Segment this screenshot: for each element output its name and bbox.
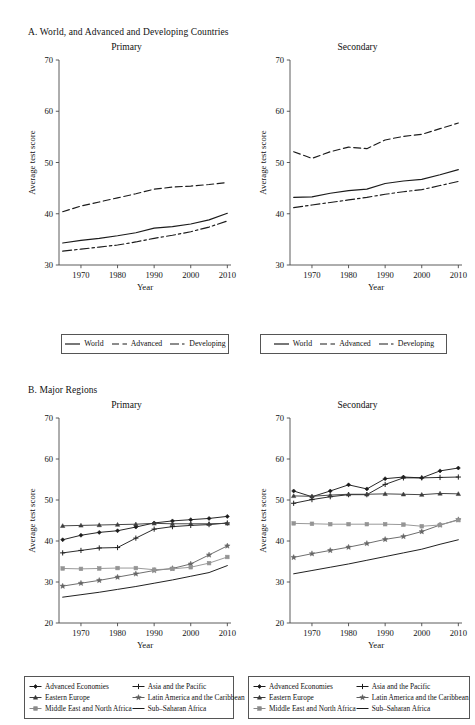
svg-text:60: 60 [44,454,53,464]
legend-item-label: Latin America and the Caribbean [148,694,245,701]
legend-key-dashed [319,340,336,348]
legend-key-dashed [111,340,128,348]
svg-text:40: 40 [275,536,284,546]
svg-text:2000: 2000 [182,270,199,280]
legend-item-eastern-europe[interactable]: Eastern Europe [253,693,356,702]
legend-item-label: Asia and the Pacific [148,683,207,690]
svg-text:30: 30 [44,260,53,270]
legend-item-label: World [293,340,312,348]
svg-text:1990: 1990 [146,270,163,280]
svg-text:1980: 1980 [109,270,126,280]
legend-panel-b-primary: Advanced EconomiesAsia and the PacificEa… [24,676,234,719]
svg-text:2010: 2010 [450,270,467,280]
svg-text:Average test score: Average test score [258,488,268,552]
legend-key-solid [64,340,81,348]
svg-text:30: 30 [275,260,284,270]
legend-item-label: Advanced Economies [269,683,333,690]
legend-key-plus [356,682,369,691]
legend-item-developing[interactable]: Developing [169,340,225,348]
chart-title-b-primary: Primary [14,400,239,410]
svg-text:50: 50 [44,495,53,505]
chart-panel-b-primary: Primary 20304050607019701980199020002010… [14,400,239,665]
legend-key-diamond [253,682,266,691]
svg-text:2000: 2000 [182,628,199,638]
legend-item-label: Middle East and North Africa [269,705,356,712]
legend-item-asia-and-the-pacific[interactable]: Asia and the Pacific [132,682,245,691]
svg-text:Year: Year [368,282,384,292]
svg-text:50: 50 [275,495,284,505]
legend-panel-b-secondary: Advanced EconomiesAsia and the PacificEa… [248,676,470,719]
legend-item-label: Sub–Saharan Africa [372,705,431,712]
svg-text:30: 30 [275,577,284,587]
svg-text:1990: 1990 [146,628,163,638]
legend-key-triangle [29,693,42,702]
svg-text:40: 40 [44,209,53,219]
legend-item-latin-america-and-the-caribbean[interactable]: Latin America and the Caribbean [132,693,245,702]
legend-key-dashdot [169,340,186,348]
legend-key-plus [132,682,145,691]
chart-panel-a-secondary: Secondary 304050607019701980199020002010… [245,42,470,307]
svg-text:40: 40 [275,209,284,219]
svg-text:60: 60 [44,106,53,116]
panel-b-title: B. Major Regions [28,385,97,395]
svg-text:1990: 1990 [377,628,394,638]
chart-panel-b-secondary: Secondary 203040506070197019801990200020… [245,400,470,665]
svg-text:70: 70 [275,55,284,65]
svg-text:60: 60 [275,106,284,116]
svg-text:20: 20 [275,618,284,628]
legend-item-label: Eastern Europe [269,694,314,701]
svg-text:2010: 2010 [219,270,236,280]
chart-canvas-a-primary: 304050607019701980199020002010Average te… [14,42,239,307]
legend-item-label: Sub–Saharan Africa [148,705,207,712]
legend-key-diamond [29,682,42,691]
legend-item-label: World [84,340,103,348]
svg-text:Average test score: Average test score [27,488,37,552]
legend-key-line [356,704,369,713]
legend-item-label: Asia and the Pacific [372,683,431,690]
svg-text:Average test score: Average test score [258,130,268,194]
svg-text:50: 50 [44,158,53,168]
svg-text:Average test score: Average test score [27,130,37,194]
legend-item-advanced[interactable]: Advanced [319,340,371,348]
svg-text:Year: Year [137,282,153,292]
legend-item-asia-and-the-pacific[interactable]: Asia and the Pacific [356,682,469,691]
legend-item-label: Advanced Economies [45,683,109,690]
legend-panel-a-primary: WorldAdvancedDeveloping [61,334,229,354]
legend-item-latin-america-and-the-caribbean[interactable]: Latin America and the Caribbean [356,693,469,702]
legend-item-advanced-economies[interactable]: Advanced Economies [29,682,132,691]
svg-text:50: 50 [275,158,284,168]
legend-key-square [253,704,266,713]
legend-item-sub-saharan-africa[interactable]: Sub–Saharan Africa [356,704,469,713]
legend-key-solid [273,340,290,348]
legend-item-middle-east-and-north-africa[interactable]: Middle East and North Africa [253,704,356,713]
legend-item-middle-east-and-north-africa[interactable]: Middle East and North Africa [29,704,132,713]
svg-text:20: 20 [44,618,53,628]
svg-text:70: 70 [275,413,284,423]
legend-item-advanced[interactable]: Advanced [111,340,163,348]
legend-item-label: Latin America and the Caribbean [372,694,469,701]
legend-item-world[interactable]: World [64,340,103,348]
svg-text:2000: 2000 [413,628,430,638]
chart-panel-a-primary: Primary 304050607019701980199020002010Av… [14,42,239,307]
legend-item-sub-saharan-africa[interactable]: Sub–Saharan Africa [132,704,245,713]
svg-text:2010: 2010 [450,628,467,638]
svg-text:70: 70 [44,55,53,65]
chart-title-a-primary: Primary [14,42,239,52]
legend-item-advanced-economies[interactable]: Advanced Economies [253,682,356,691]
svg-text:40: 40 [44,536,53,546]
legend-key-star [356,693,369,702]
legend-key-triangle [253,693,266,702]
chart-title-a-secondary: Secondary [245,42,470,52]
legend-item-world[interactable]: World [273,340,312,348]
svg-text:1970: 1970 [303,628,320,638]
svg-text:1980: 1980 [340,270,357,280]
legend-key-square [29,704,42,713]
legend-key-star [132,693,145,702]
legend-item-eastern-europe[interactable]: Eastern Europe [29,693,132,702]
svg-text:Year: Year [368,640,384,650]
svg-text:1970: 1970 [303,270,320,280]
legend-item-developing[interactable]: Developing [378,340,434,348]
svg-text:2000: 2000 [413,270,430,280]
svg-text:70: 70 [44,413,53,423]
svg-text:2010: 2010 [219,628,236,638]
